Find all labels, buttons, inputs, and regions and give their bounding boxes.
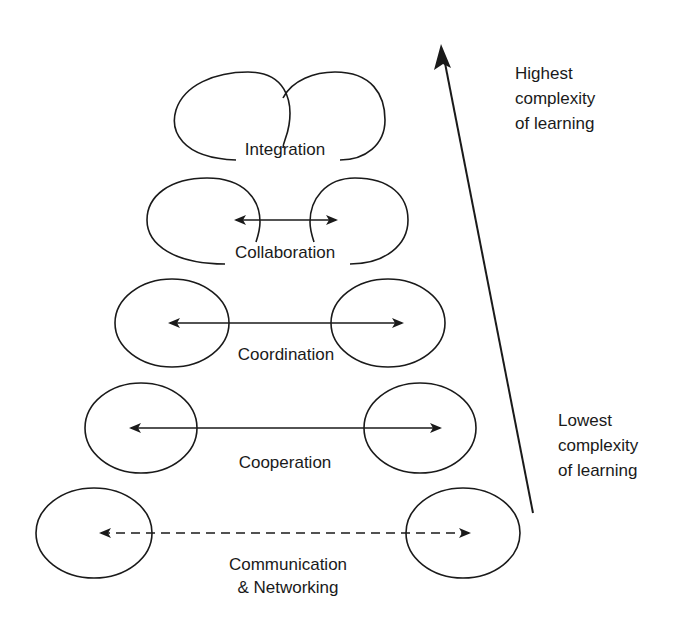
level-label-networking: & Networking — [237, 578, 338, 597]
level-label-coordination: Coordination — [238, 345, 334, 364]
level-label-collaboration: Collaboration — [235, 243, 335, 262]
level-label-cooperation: Cooperation — [239, 453, 332, 472]
lowest-complexity-label-line3: of learning — [558, 461, 637, 480]
level-label-communication: Communication — [229, 555, 347, 574]
collaboration-hierarchy-diagram: Integration Collaboration Coordination C… — [0, 0, 687, 627]
highest-complexity-label-line1: Highest — [515, 64, 573, 83]
lowest-complexity-label-line2: complexity — [558, 436, 639, 455]
highest-complexity-label-line2: complexity — [515, 89, 596, 108]
level-label-integration: Integration — [245, 140, 325, 159]
lowest-complexity-label-line1: Lowest — [558, 411, 612, 430]
complexity-arrowhead-icon — [434, 44, 451, 70]
highest-complexity-label-line3: of learning — [515, 114, 594, 133]
